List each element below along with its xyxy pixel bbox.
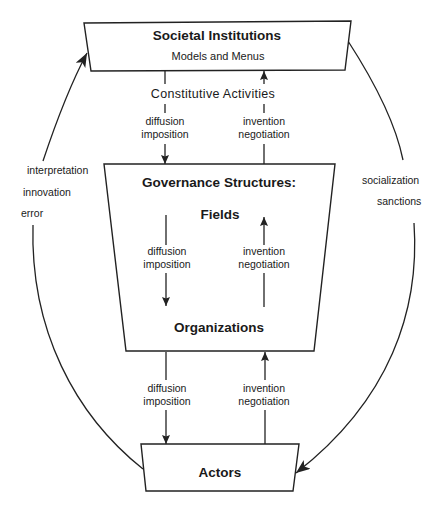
actors-title: Actors: [199, 465, 242, 480]
societal-institutions-title: Societal Institutions: [153, 28, 281, 43]
link-label-negotiation: negotiation: [238, 395, 290, 407]
link-label-diffusion: diffusion: [148, 382, 187, 394]
organizations-label: Organizations: [174, 320, 264, 335]
link-label-imposition: imposition: [143, 258, 190, 270]
constitutive-activities-label: Constitutive Activities: [151, 87, 275, 101]
link-label-invention: invention: [243, 245, 285, 257]
institutional-levels-diagram: interpretation innovation error socializ…: [0, 0, 439, 506]
societal-institutions-node: Societal Institutions Models and Menus: [84, 21, 351, 71]
actors-node: Actors: [141, 444, 299, 491]
link-label-negotiation: negotiation: [238, 258, 290, 270]
link-label-diffusion: diffusion: [148, 245, 187, 257]
link-label-invention: invention: [243, 382, 285, 394]
left-loop-label-innovation: innovation: [23, 186, 71, 198]
governance-structures-title: Governance Structures:: [142, 175, 296, 190]
right-loop-label-socialization: socialization: [362, 174, 419, 186]
fields-label: Fields: [200, 207, 239, 222]
left-loop-label-error: error: [21, 207, 44, 219]
governance-structures-node: Governance Structures: Fields Organizati…: [104, 164, 335, 351]
link-label-imposition: imposition: [141, 128, 188, 140]
link-label-imposition: imposition: [143, 395, 190, 407]
right-loop-label-sanctions: sanctions: [377, 195, 421, 207]
link-label-negotiation: negotiation: [238, 128, 290, 140]
societal-institutions-subtitle: Models and Menus: [172, 50, 265, 62]
left-loop-label-interpretation: interpretation: [27, 164, 88, 176]
link-label-invention: invention: [243, 115, 285, 127]
link-label-diffusion: diffusion: [146, 115, 185, 127]
